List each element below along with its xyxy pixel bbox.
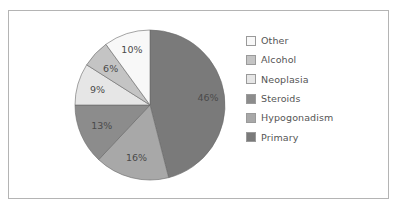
legend-label: Hypogonadism	[261, 112, 333, 123]
slice-label: 46%	[197, 92, 218, 103]
legend-label: Primary	[261, 132, 298, 143]
legend-swatch	[246, 94, 256, 104]
legend-item-alcohol: Alcohol	[246, 50, 333, 69]
legend-swatch	[246, 55, 256, 65]
legend-swatch	[246, 74, 256, 84]
legend-item-neoplasia: Neoplasia	[246, 70, 333, 89]
slice-label: 6%	[103, 63, 118, 74]
slice-label: 9%	[90, 84, 105, 95]
legend-item-steroids: Steroids	[246, 89, 333, 108]
slice-label: 13%	[91, 120, 112, 131]
pie-chart: 46%16%13%9%6%10%	[0, 0, 397, 207]
legend-swatch	[246, 36, 256, 46]
legend-item-hypogonadism: Hypogonadism	[246, 108, 333, 127]
legend-item-other: Other	[246, 31, 333, 50]
legend-swatch	[246, 113, 256, 123]
legend-label: Neoplasia	[261, 74, 309, 85]
legend-label: Other	[261, 35, 288, 46]
slice-label: 10%	[121, 44, 142, 55]
slice-label: 16%	[126, 152, 147, 163]
legend: Other Alcohol Neoplasia Steroids Hypogon…	[246, 31, 333, 147]
legend-label: Steroids	[261, 93, 301, 104]
legend-item-primary: Primary	[246, 127, 333, 146]
legend-swatch	[246, 132, 256, 142]
legend-label: Alcohol	[261, 54, 296, 65]
